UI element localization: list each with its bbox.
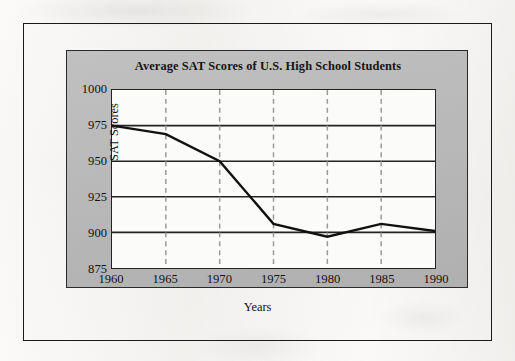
line-chart-svg <box>112 90 435 268</box>
x-tick-1965: 1965 <box>153 272 178 287</box>
chart-title: Average SAT Scores of U.S. High School S… <box>67 59 469 74</box>
y-tick-975: 975 <box>67 118 107 133</box>
x-axis-tick-labels: 1960 1965 1970 1975 1980 1985 1990 <box>111 272 436 290</box>
x-tick-1980: 1980 <box>315 272 340 287</box>
x-tick-1990: 1990 <box>423 272 448 287</box>
plot-area <box>111 89 436 269</box>
chart-panel: Average SAT Scores of U.S. High School S… <box>66 50 468 288</box>
y-tick-900: 900 <box>67 226 107 241</box>
y-tick-950: 950 <box>67 154 107 169</box>
y-axis-tick-labels: 1000 975 950 925 900 875 <box>67 89 107 269</box>
x-tick-1985: 1985 <box>369 272 394 287</box>
y-axis-title: SAT Scores <box>107 103 122 161</box>
y-tick-925: 925 <box>67 190 107 205</box>
x-tick-1970: 1970 <box>207 272 232 287</box>
scanned-page: Average SAT Scores of U.S. High School S… <box>0 0 515 361</box>
vertical-gridlines <box>166 90 381 268</box>
x-tick-1975: 1975 <box>261 272 286 287</box>
y-tick-1000: 1000 <box>67 82 107 97</box>
x-tick-1960: 1960 <box>98 272 123 287</box>
x-axis-title: Years <box>23 300 492 315</box>
